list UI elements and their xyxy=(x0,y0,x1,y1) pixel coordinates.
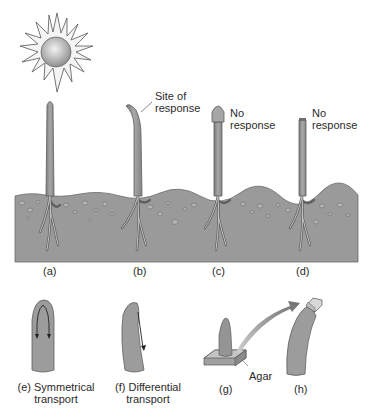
label-line-2: transport xyxy=(108,393,188,405)
label-line-2: transport xyxy=(16,393,96,405)
agar-block xyxy=(204,318,248,366)
sun-icon xyxy=(20,13,93,92)
label-no-response-c: No response xyxy=(230,107,275,131)
label-panel-c: (c) xyxy=(212,265,225,277)
label-line-1: No xyxy=(230,107,275,119)
label-panel-g: (g) xyxy=(219,383,232,395)
label-line-2: response xyxy=(312,119,357,131)
label-line-2: response xyxy=(155,102,200,114)
label-line-1: (e) Symmetrical xyxy=(16,381,96,393)
label-panel-e: (e) Symmetrical transport xyxy=(16,381,96,405)
phototropism-diagram xyxy=(0,0,371,410)
label-agar: Agar xyxy=(249,370,272,382)
label-line-1: (f) Differential xyxy=(108,381,188,393)
site-of-response-leader xyxy=(141,102,152,112)
coleoptile-b xyxy=(126,105,142,196)
label-line-1: Site of xyxy=(155,90,200,102)
label-panel-a: (a) xyxy=(43,265,56,277)
label-panel-b: (b) xyxy=(133,265,146,277)
coleoptile-f xyxy=(122,303,146,373)
coleoptile-c xyxy=(214,122,222,196)
label-site-of-response: Site of response xyxy=(155,90,200,114)
label-panel-f: (f) Differential transport xyxy=(108,381,188,405)
coleoptile-a xyxy=(46,102,54,197)
label-line-2: response xyxy=(230,119,275,131)
label-panel-h: (h) xyxy=(294,383,307,395)
coleoptile-e xyxy=(32,300,54,372)
coleoptile-d xyxy=(299,120,306,196)
soil xyxy=(15,183,358,262)
label-no-response-d: No response xyxy=(312,107,357,131)
opaque-cap xyxy=(212,106,224,122)
label-panel-d: (d) xyxy=(296,265,309,277)
label-line-1: No xyxy=(312,107,357,119)
